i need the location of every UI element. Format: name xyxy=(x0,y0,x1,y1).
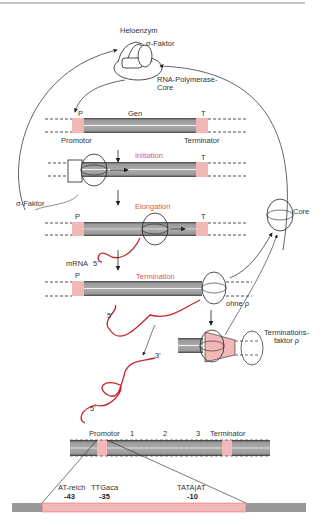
five-prime-label-3: 5' xyxy=(90,405,96,413)
holoenzyme-label: Heloenzym xyxy=(120,27,158,35)
p-label-3: P xyxy=(75,213,80,221)
three-prime-label: 3' xyxy=(155,352,161,360)
promoter-pos-43: -43 xyxy=(64,493,75,501)
termination-row xyxy=(45,233,272,336)
promoter-seq-ttgaca: TTGaca xyxy=(91,484,118,492)
promoter-seq-tata: TATA|AT xyxy=(177,484,205,492)
core-icon xyxy=(267,199,293,231)
sigma-factor-label-top: σ-Faktor xyxy=(146,40,174,48)
promotor-label: Promotor xyxy=(61,137,92,145)
p-label: P xyxy=(78,110,83,118)
promoter-pos-35: -35 xyxy=(99,493,110,501)
core-label: Core xyxy=(293,208,309,216)
mrna-five-prime-label: 5' xyxy=(93,260,99,268)
sigma-factor-label-left: σ-Faktor xyxy=(16,200,44,208)
promoter-detail-bar xyxy=(12,503,306,512)
termination-label: Termination xyxy=(136,273,175,281)
five-prime-label-2: 5' xyxy=(107,312,113,320)
ohne-rho-label: ohne ρ xyxy=(226,300,249,308)
terminator-label: Terminator xyxy=(184,137,219,145)
gene-label: Gen xyxy=(128,110,142,118)
initiation-label: Initiation xyxy=(135,152,163,160)
t-label-3: T xyxy=(201,213,206,221)
t-label-2: T xyxy=(201,154,206,162)
p-label-4: P xyxy=(75,272,80,280)
t-label: T xyxy=(201,110,206,118)
gene-map-segment-3: 3 xyxy=(196,430,200,438)
promoter-pos-10: -10 xyxy=(187,493,198,501)
rna-polymerase-core-label: RNA-Polymerase- Core xyxy=(157,76,217,91)
promoter-seq-at-reich: AT-reich xyxy=(58,484,85,492)
gene-map-promotor-label: Promotor xyxy=(89,430,120,438)
mrna-label: mRNA xyxy=(66,260,88,268)
gene-map xyxy=(42,440,270,503)
gene-row xyxy=(45,118,248,133)
mrna-strand xyxy=(81,358,155,423)
termination-factor-label: Terminations- faktor ρ xyxy=(264,329,309,344)
elongation-label: Elongation xyxy=(135,203,170,211)
gene-map-segment-2: 2 xyxy=(163,430,167,438)
gene-map-segment-1: 1 xyxy=(130,430,134,438)
gene-map-terminator-label: Terminator xyxy=(210,430,245,438)
